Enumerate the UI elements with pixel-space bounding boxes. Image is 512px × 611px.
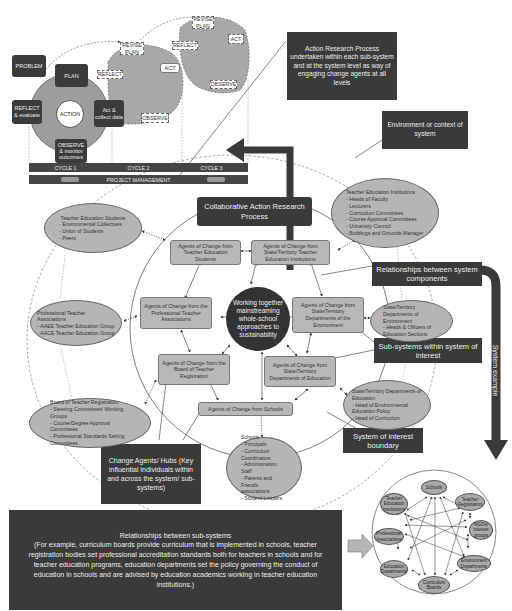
relationships-subsystems-body: (For example, curriculum boards provide … [19,540,332,589]
cycle3-observe: OBSERVE [210,80,237,89]
progress-arrow-icon [207,177,225,182]
action-circle: ACTION [56,100,84,128]
subsystem-education: State/Territory Departments of Education… [343,380,431,430]
agent-schools-label: Agents of Change from Schools [208,406,283,413]
cycle2-act: ACT [160,63,180,73]
example-node-curriculum-label: Curriculum Boards [419,580,449,591]
subsystem-registration-title: Board of Teacher Registration [50,399,130,406]
observe-monitor-label: OBSERVE & monitor outcomes [56,142,86,161]
cycle-1-label: CYCLE 1 [54,165,76,171]
list-item: Peers [59,235,127,242]
agent-environment-label: Agents of Change from State/Territory De… [296,302,360,328]
cycle3-revise-plan-label: REVISE PLAN [193,16,213,28]
example-node-curriculum: Curriculum Boards [418,576,450,594]
subsystem-schools: Schools PrincipalsCurriculum Coordinator… [226,437,302,499]
list-item: Heads & Officers of Education Sections [383,324,440,338]
subsystem-students-title: Teacher Education Students [59,215,127,222]
example-node-professional: Professional Associations [374,528,404,545]
cycle2-act-label: ACT [165,65,176,71]
callout-relationships-subsystems: Relationships between sub-systems (For e… [9,510,342,610]
example-node-schools: Schools [421,480,447,495]
cycle3-act: ACT [228,34,244,44]
list-item: Principals [241,441,287,448]
subsystem-students: Teacher Education Students Environmental… [44,203,142,253]
agent-education-label: Agents of Change from State/Territory De… [268,362,332,382]
list-item: Curriculum Committees [346,210,424,217]
list-item: Head of Environmental Education Policy [352,402,422,416]
example-node-tei: Teacher Education Institutions [380,493,408,515]
agent-registration: Agents of Change from the Board of Teach… [158,354,230,385]
callout-subsystems: Sub-systems within system of interest [374,338,482,363]
agent-professional-label: Agents of Change from the Professional T… [144,303,208,323]
progress-arrow-icon [61,177,79,182]
example-node-teacher-registration-label: Teacher Registration [456,497,484,508]
subsystem-professional: Professional Teacher Associations AAEE T… [30,300,122,346]
example-node-tei-label: Teacher Education Institutions [381,496,407,512]
reflect-evaluate-label: REFLECT & evaluate [12,105,42,118]
relationships-subsystems-title: Relationships between sub-systems [120,531,232,541]
subsystem-institutions: Teacher Education Institutions Heads of … [331,178,439,248]
cycle3-act-label: ACT [231,36,242,42]
list-item: Heads of Faculty [346,196,424,203]
example-node-education: Education Departments [380,560,408,578]
agent-registration-label: Agents of Change from the Board of Teach… [162,360,226,380]
list-item: Professional Standards Setting Committee… [50,433,130,447]
cycle2-observe-label: OBSERVE [142,115,168,121]
subsystem-environment: State/Territory Departments of Environme… [370,300,453,342]
list-item: Administration Staff [241,461,287,475]
system-example-text: System example [493,344,500,396]
agent-students: Agents of Change from Teacher Education … [170,240,241,265]
cycle-2-label: CYCLE 2 [127,165,149,171]
list-item: Buildings and Grounds Manager [346,230,424,237]
subsystem-registration: Board of Teacher Registration Steering C… [29,398,151,448]
example-node-environment-label: Environment Departments [458,558,490,569]
example-node-education-label: Education Departments [381,564,407,575]
agent-schools: Agents of Change from Schools [198,402,293,416]
cycle2-reflect: REFLECT [97,70,123,79]
reflect-evaluate-box: REFLECT & evaluate [12,100,42,124]
cycle2-reflect-label: REFLECT [98,71,122,77]
list-item: AACE Teacher Education Group [37,330,114,337]
callout-subsystems-text: Sub-systems within system of interest [374,342,482,360]
list-item: Union of Students [59,228,127,235]
list-item: Student Leaders [241,495,287,502]
agent-students-label: Agents of Change from Teacher Education … [174,243,237,263]
callout-relationships-components-text: Relationships between system components [374,265,480,283]
act-collect-label: Act & collect data [95,107,123,120]
agent-institutions: Agents of Change from State/Territory Te… [251,240,330,265]
example-node-professional-label: Professional Associations [375,531,403,542]
core-label: Working together mainstreaming whole-sch… [231,299,285,339]
problem-label: PROBLEM [16,63,43,69]
example-node-environment: Environment Departments [457,555,491,572]
list-item: Curriculum Coordinators [241,448,287,462]
callout-change-agents-text: Change Agents/ Hubs (Key influential ind… [104,456,198,492]
agent-professional: Agents of Change from the Professional T… [140,297,212,329]
cycle3-revise-plan: REVISE PLAN [192,16,214,29]
subsystem-professional-title: Professional Teacher Associations [37,310,115,324]
list-item: University Council [346,223,424,230]
callout-action-research-text: Action Research Process undertaken withi… [290,45,394,88]
list-item: Head of Curriculum [352,415,422,422]
agent-institutions-label: Agents of Change from State/Territory Te… [255,243,326,263]
callout-boundary-text: System of interest boundary [343,432,423,450]
subsystem-education-title: State/Territory Departments of Education [352,388,422,402]
cycle3-observe-label: OBSERVE [211,81,237,87]
list-item: Course Approval Committees [346,216,424,223]
subsystem-schools-title: Schools [241,434,287,441]
agent-environment: Agents of Change from State/Territory De… [292,297,364,333]
callout-change-agents: Change Agents/ Hubs (Key influential ind… [101,444,201,504]
example-node-schools-label: Schools [426,485,442,490]
project-management-label: PROJECT MANAGEMENT [106,177,170,183]
list-item: Environmental Collectives [59,221,127,228]
cycle3-reflect-label: REFLECT [173,42,197,48]
plan-box: PLAN [55,64,88,87]
example-node-ngo-label: NGOs/ interest groups [470,522,492,538]
callout-boundary: System of interest boundary [343,428,423,453]
list-item: Steering Committees/ Working Groups [50,406,130,420]
cycle-bar: CYCLE 1 CYCLE 2 CYCLE 3 [29,163,248,172]
cycle3-reflect: REFLECT [172,41,198,50]
action-label: ACTION [60,111,80,117]
cycle2-revise-plan: REVISE PLAN [120,42,144,55]
example-node-ngo: NGOs/ interest groups [469,520,493,540]
callout-action-research: Action Research Process undertaken withi… [287,32,397,100]
